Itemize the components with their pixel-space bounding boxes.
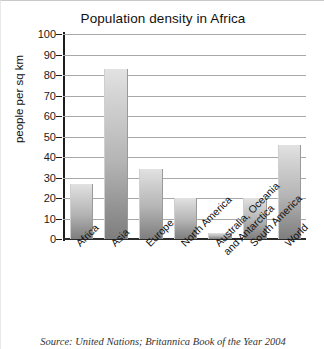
bar [104,69,128,239]
gridline [63,34,306,35]
y-axis-tick-label: 40 [44,151,56,163]
gridline [63,96,306,97]
y-axis-tick [56,219,62,220]
y-axis-tick [56,34,62,35]
y-axis-tick-label: 70 [44,90,56,102]
y-axis-tick-label: 90 [44,49,56,61]
y-axis-tick-label: 30 [44,172,56,184]
y-axis-tick [56,137,62,138]
x-axis-tick-labels: AfricaAsiaEuropeNorth AmericaAustralia, … [63,241,306,341]
y-axis-tick-label: 60 [44,110,56,122]
y-axis-tick-label: 80 [44,69,56,81]
source-note: Source: United Nations; Britannica Book … [1,336,324,347]
y-axis-tick-label: 10 [44,213,56,225]
gridline [63,75,306,76]
y-axis-tick [56,198,62,199]
y-axis-tick [56,239,62,240]
y-axis-tick [56,55,62,56]
y-axis-tick-labels: 1009080706050403020100 [1,34,56,239]
y-axis-tick [56,178,62,179]
gridline [63,178,306,179]
y-axis-tick-label: 20 [44,192,56,204]
gridline [63,55,306,56]
y-axis-tick [56,157,62,158]
y-axis-tick [56,96,62,97]
chart-title: Population density in Africa [1,11,324,26]
y-axis-tick [56,75,62,76]
gridline [63,137,306,138]
gridline [63,157,306,158]
y-axis-tick-label: 100 [38,28,56,40]
y-axis-tick-label: 50 [44,131,56,143]
chart-figure: Population density in Africa people per … [0,0,324,349]
y-axis-tick [56,116,62,117]
gridline [63,116,306,117]
